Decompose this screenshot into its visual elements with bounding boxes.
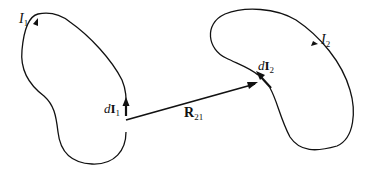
current-arrow-1 (33, 18, 38, 26)
current-loop-1 (22, 13, 126, 164)
label-current-1: I1 (18, 11, 28, 28)
label-current-2: I2 (320, 32, 330, 49)
label-r21: R21 (184, 105, 203, 122)
current-arrow-2 (311, 41, 318, 46)
diagram-canvas: I1 dI1 I2 dI2 R21 (0, 0, 369, 170)
current-loop-2 (210, 9, 353, 150)
label-dl1: dI1 (104, 101, 120, 118)
dl1-arrowhead (123, 97, 130, 106)
label-dl2: dI2 (258, 58, 274, 75)
current-element-dl2 (261, 77, 271, 88)
r21-arrowhead (247, 82, 258, 89)
